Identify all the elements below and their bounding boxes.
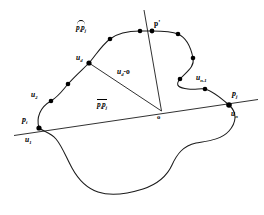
geometry-figure: pipj pipj p' ud ud-o u2 pi u1 un-1 pj un… xyxy=(0,0,264,215)
p-prime-label: p' xyxy=(154,20,160,28)
marker-sample-f xyxy=(178,77,183,82)
u-2-label: u2 xyxy=(31,91,38,99)
figure-canvas xyxy=(0,0,264,215)
marker-p-j xyxy=(226,102,232,108)
u-n-minus-1-label: un-1 xyxy=(196,74,207,82)
marker-sample-c xyxy=(138,29,143,34)
marker-sample-d xyxy=(176,32,181,37)
marker-sample-e xyxy=(191,56,196,61)
u-d-minus-o-label: ud-o xyxy=(117,68,130,76)
u-d-label: ud xyxy=(76,54,83,62)
marker-sample-b xyxy=(108,37,113,42)
marker-p-prime xyxy=(150,29,155,34)
origin-label: o xyxy=(157,114,160,121)
u-1-label: u1 xyxy=(25,136,32,144)
marker-u-2 xyxy=(49,99,54,104)
marker-sample-a xyxy=(66,82,71,87)
chord-pi-pj-label: pipj xyxy=(97,101,107,109)
u-n-label: un xyxy=(231,110,238,118)
arc-pi-pj-label: pipj xyxy=(76,24,86,32)
marker-u-n-minus-1 xyxy=(203,87,208,92)
chord-line-pi-pj xyxy=(14,100,258,136)
marker-p-i xyxy=(36,125,41,130)
closed-curve xyxy=(38,31,235,194)
p-i-label: pi xyxy=(22,116,27,124)
p-j-label: pj xyxy=(232,90,237,98)
marker-u-d xyxy=(86,60,91,65)
